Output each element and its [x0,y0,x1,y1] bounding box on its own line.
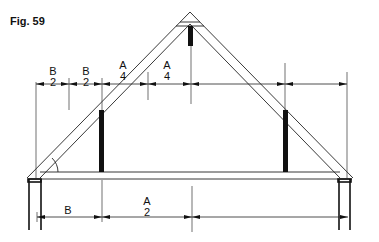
king-post [188,26,193,46]
dim-label-a4-1: A 4 [115,60,131,82]
left-strut [99,110,104,172]
dim-label-a4-2: A 4 [159,60,175,82]
tie-beam [28,172,352,179]
dim-label-a2: A 2 [139,196,155,218]
left-rafter [27,12,190,178]
dim-label-b2-2: B 2 [78,66,94,88]
right-rafter [190,12,353,178]
dim-label-b: B [60,205,76,216]
roof-truss-diagram [0,0,379,242]
left-wall-plate [28,179,41,182]
right-wall-plate [338,179,351,182]
right-strut [283,110,288,172]
dim-label-b2-1: B 2 [45,66,61,88]
